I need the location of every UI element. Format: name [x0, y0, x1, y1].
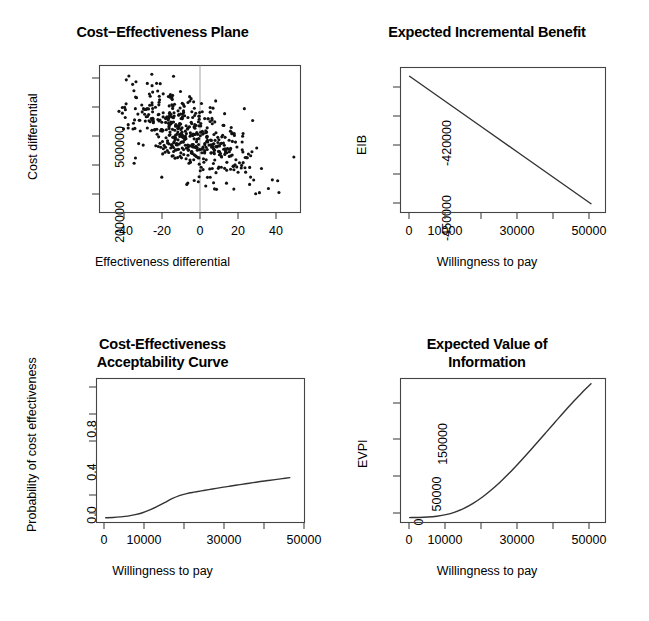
- scatter-point: [158, 142, 161, 145]
- scatter-point: [132, 122, 135, 125]
- scatter-point: [167, 122, 170, 125]
- scatter-point: [258, 191, 261, 194]
- scatter-point: [241, 135, 244, 138]
- scatter-point: [232, 168, 235, 171]
- evpi-y-ticks: [393, 403, 401, 513]
- scatter-point: [215, 188, 218, 191]
- scatter-point: [198, 148, 201, 151]
- scatter-point: [127, 74, 130, 77]
- scatter-point: [181, 134, 184, 137]
- scatter-point: [187, 144, 190, 147]
- scatter-point: [228, 139, 231, 142]
- scatter-point: [188, 125, 191, 128]
- scatter-point: [217, 150, 220, 153]
- scatter-point: [193, 146, 196, 149]
- scatter-point: [260, 167, 263, 170]
- scatter-point: [125, 78, 128, 81]
- scatter-point: [162, 92, 165, 95]
- scatter-point: [202, 161, 205, 164]
- evpi-plot-svg: [325, 310, 649, 621]
- scatter-point: [192, 100, 195, 103]
- scatter-point: [134, 80, 137, 83]
- scatter-point: [195, 138, 198, 141]
- scatter-point: [171, 105, 174, 108]
- scatter-point: [212, 162, 215, 165]
- scatter-point: [150, 129, 153, 132]
- eib-plot-svg: [325, 0, 649, 310]
- scatter-point: [156, 89, 159, 92]
- eib-plot-box: [401, 68, 606, 213]
- scatter-point: [166, 139, 169, 142]
- scatter-point: [248, 183, 251, 186]
- panel-cost-effectiveness-plane: Cost−Effectiveness Plane Cost differenti…: [0, 0, 325, 310]
- scatter-point: [203, 117, 206, 120]
- scatter-point: [137, 142, 140, 145]
- scatter-point: [151, 107, 154, 110]
- scatter-point: [197, 115, 200, 118]
- scatter-point: [246, 156, 249, 159]
- scatter-point: [176, 130, 179, 133]
- scatter-point: [184, 134, 187, 137]
- scatter-point: [151, 110, 154, 113]
- scatter-point: [209, 143, 212, 146]
- scatter-point: [207, 117, 210, 120]
- scatter-point: [159, 129, 162, 132]
- scatter-point: [208, 167, 211, 170]
- scatter-point: [187, 162, 190, 165]
- scatter-point: [223, 147, 226, 150]
- scatter-point: [142, 144, 145, 147]
- scatter-point: [170, 97, 173, 100]
- scatter-point: [148, 104, 151, 107]
- scatter-point: [184, 137, 187, 140]
- scatter-point: [184, 144, 187, 147]
- scatter-point: [218, 144, 221, 147]
- cep-scatter-points: [117, 73, 295, 196]
- ceac-data-line: [106, 478, 290, 518]
- scatter-point: [157, 113, 160, 116]
- scatter-point: [149, 95, 152, 98]
- scatter-point: [140, 103, 143, 106]
- scatter-point: [175, 143, 178, 146]
- cep-y-ticks: [92, 78, 100, 194]
- scatter-point: [202, 168, 205, 171]
- scatter-point: [155, 128, 158, 131]
- eib-x-ticks: [409, 213, 589, 220]
- scatter-point: [202, 157, 205, 160]
- scatter-point: [158, 118, 161, 121]
- scatter-point: [205, 135, 208, 138]
- scatter-point: [171, 136, 174, 139]
- ceac-plot-box: [97, 379, 305, 523]
- scatter-point: [157, 135, 160, 138]
- scatter-point: [224, 136, 227, 139]
- scatter-point: [221, 134, 224, 137]
- scatter-point: [250, 150, 253, 153]
- scatter-point: [172, 116, 175, 119]
- scatter-point: [225, 161, 228, 164]
- scatter-point: [252, 178, 255, 181]
- scatter-point: [160, 176, 163, 179]
- scatter-point: [194, 112, 197, 115]
- scatter-point: [217, 138, 220, 141]
- scatter-point: [201, 110, 204, 113]
- scatter-point: [190, 110, 193, 113]
- scatter-point: [177, 126, 180, 129]
- scatter-point: [212, 142, 215, 145]
- scatter-point: [168, 127, 171, 130]
- scatter-point: [180, 131, 183, 134]
- scatter-point: [131, 127, 134, 130]
- scatter-point: [195, 155, 198, 158]
- scatter-point: [225, 182, 228, 185]
- scatter-point: [190, 122, 193, 125]
- scatter-point: [197, 120, 200, 123]
- scatter-point: [193, 137, 196, 140]
- cep-x-ticks: [124, 213, 276, 220]
- scatter-point: [159, 146, 162, 149]
- scatter-point: [198, 175, 201, 178]
- scatter-point: [217, 165, 220, 168]
- scatter-point: [211, 107, 214, 110]
- scatter-point: [164, 121, 167, 124]
- ceac-plot-svg: [0, 310, 325, 621]
- scatter-point: [187, 149, 190, 152]
- scatter-point: [193, 123, 196, 126]
- scatter-point: [197, 180, 200, 183]
